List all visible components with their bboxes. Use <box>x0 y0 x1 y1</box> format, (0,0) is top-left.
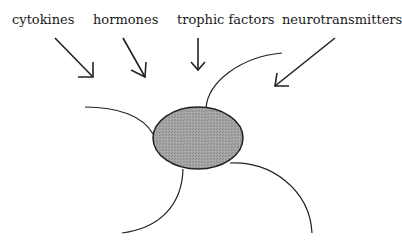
label-hormones: hormones <box>93 13 158 26</box>
process-left <box>85 107 153 134</box>
arrow-neurotransmitters <box>275 38 335 86</box>
label-cytokines: cytokines <box>12 13 74 26</box>
arrow-hormones <box>123 38 146 77</box>
process-bottom-right <box>230 163 312 233</box>
arrow-cytokines <box>55 38 93 77</box>
arrow-trophic-factors <box>191 38 205 70</box>
label-neurotransmitters: neurotransmitters <box>282 13 402 26</box>
label-trophic-factors: trophic factors <box>177 13 274 26</box>
cell-body <box>153 107 243 169</box>
process-bottom-left <box>122 169 183 233</box>
process-top-right <box>206 53 282 108</box>
